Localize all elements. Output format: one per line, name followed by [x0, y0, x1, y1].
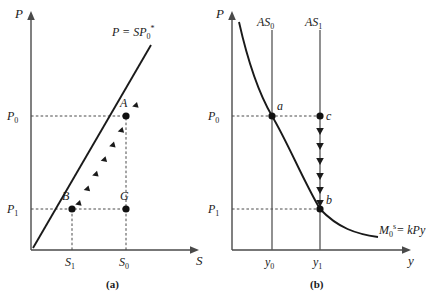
panel-b-label-b: b — [326, 193, 332, 207]
panel-b-ytick-p0: P0 — [207, 109, 219, 125]
panel-a-xtick-s0: S0 — [119, 255, 129, 271]
panel-b-curve-label: M0s= kPy — [378, 222, 426, 239]
panel-a-point-A — [122, 112, 129, 119]
panel-b-x-axis-label: y — [406, 253, 414, 268]
figure-svg: P S P0 P1 S1 S0 A B G P = SP0* (a) — [0, 0, 434, 296]
panel-a-xtick-s1: S1 — [65, 255, 75, 271]
panel-b-point-c — [316, 112, 323, 119]
panel-a-x-axis-label: S — [196, 253, 203, 268]
panel-b-xtick-y0: y0 — [264, 255, 274, 271]
panel-a-label-G: G — [120, 189, 129, 203]
panel-a-supply-ray — [33, 45, 151, 248]
panel-a-ytick-p1: P1 — [6, 202, 18, 218]
panel-b-point-a — [268, 112, 275, 119]
panel-a-y-axis-label: P — [14, 6, 23, 21]
panel-a-caption: (a) — [106, 278, 119, 291]
panel-b-label-AS0: AS0 — [256, 15, 274, 31]
panel-a-y-axis — [27, 11, 35, 250]
panel-b-point-b — [316, 205, 323, 212]
panel-a-label-A: A — [119, 96, 128, 110]
panel-b-xtick-y1: y1 — [312, 255, 322, 271]
panel-b-money-curve — [239, 22, 378, 237]
panel-b-ytick-p1: P1 — [207, 202, 219, 218]
panel-a-point-B — [68, 205, 75, 212]
panel-a-ytick-p0: P0 — [6, 109, 18, 125]
panel-a-point-G — [122, 205, 129, 212]
panel-a: P S P0 P1 S1 S0 A B G P = SP0* (a) — [6, 6, 203, 291]
panel-a-label-B: B — [62, 189, 70, 203]
panel-b: P y P0 P1 y0 y1 AS0 AS1 a c b — [207, 6, 426, 291]
panel-b-label-a: a — [277, 99, 283, 113]
panel-a-curve-label: P = SP0* — [111, 24, 155, 41]
figure-container: P S P0 P1 S1 S0 A B G P = SP0* (a) — [0, 0, 434, 296]
panel-b-x-axis — [232, 246, 411, 254]
panel-b-label-AS1: AS1 — [304, 15, 322, 31]
panel-b-caption: (b) — [310, 278, 324, 291]
panel-a-x-axis — [31, 246, 199, 254]
panel-b-label-c: c — [326, 109, 332, 123]
panel-b-y-axis — [228, 11, 236, 250]
panel-b-y-axis-label: P — [215, 6, 224, 21]
